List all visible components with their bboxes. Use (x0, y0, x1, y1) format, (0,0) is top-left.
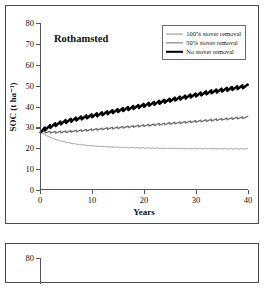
y-axis-tick-second (36, 258, 40, 259)
y-axis-tick (36, 107, 40, 108)
y-axis-tick (36, 65, 40, 66)
x-axis-tick (92, 190, 93, 194)
series-line (40, 132, 248, 149)
y-axis-title: SOC (t ha⁻¹) (8, 82, 18, 131)
x-axis-tick-label: 0 (38, 195, 42, 205)
legend-line-icon-no-removal (166, 47, 183, 56)
panel-title: Rothamsted (54, 33, 108, 44)
y-axis-tick-label: 10 (26, 164, 35, 174)
x-axis-tick (144, 190, 145, 194)
y-axis-tick-label: 80 (26, 18, 35, 28)
y-axis-tick-label: 50 (26, 81, 35, 91)
y-axis-tick (36, 148, 40, 149)
x-axis-tick-label: 20 (140, 195, 149, 205)
y-axis-line-second (40, 258, 41, 284)
panel-title-text: Rothamsted (54, 33, 108, 44)
y-axis-tick (36, 44, 40, 45)
y-axis-tick-label: 40 (26, 102, 35, 112)
legend-line-icon-100-removal (166, 29, 183, 38)
chart-panel-second-cropped: 80 (5, 243, 259, 283)
legend-item: 50% stover removal (166, 38, 241, 47)
y-axis-tick-label: 20 (26, 143, 35, 153)
legend-item: 100% stover removal (166, 29, 241, 38)
y-axis-tick (36, 23, 40, 24)
y-axis-tick (36, 86, 40, 87)
x-axis-tick-label: 30 (192, 195, 201, 205)
x-axis-title: Years (133, 207, 155, 217)
legend-label: No stover removal (186, 47, 234, 56)
x-axis-tick-label: 40 (244, 195, 253, 205)
y-axis-tick-label: 30 (26, 122, 35, 132)
x-axis-tick (40, 190, 41, 194)
y-axis-title-text: SOC (t ha⁻¹) (8, 82, 18, 131)
legend-label: 50% stover removal (186, 38, 237, 47)
y-axis-tick (36, 169, 40, 170)
x-axis-tick (248, 190, 249, 194)
x-axis-tick (196, 190, 197, 194)
legend-label: 100% stover removal (186, 29, 241, 38)
y-axis-tick (36, 127, 40, 128)
legend-line-icon-50-removal (166, 38, 183, 47)
x-axis-tick-label: 10 (88, 195, 97, 205)
y-axis-tick-label: 60 (26, 60, 35, 70)
y-axis-tick-label: 70 (26, 39, 35, 49)
chart-panel-rothamsted: 01020304050607080 010203040 SOC (t ha⁻¹)… (5, 5, 259, 224)
y-axis-line (40, 23, 41, 190)
legend: 100% stover removal 50% stover removal N… (162, 25, 246, 60)
legend-item: No stover removal (166, 47, 241, 56)
plot-area: 01020304050607080 010203040 SOC (t ha⁻¹)… (40, 23, 248, 190)
y-axis-tick-label: 0 (30, 185, 34, 195)
x-axis-title-text: Years (133, 207, 155, 217)
plot-area-second: 80 (40, 258, 248, 288)
y-axis-tick-label-second: 80 (26, 253, 35, 263)
